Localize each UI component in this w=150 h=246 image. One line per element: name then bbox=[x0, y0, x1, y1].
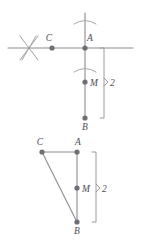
measure-bracket-bottom bbox=[92, 152, 100, 222]
measure-value-top: 2 bbox=[110, 78, 115, 88]
point-c-dot bbox=[49, 45, 54, 50]
point-c-label: C bbox=[37, 137, 44, 147]
point-a-label: A bbox=[86, 33, 93, 43]
top-diagram: C A M B 2 bbox=[8, 13, 133, 132]
point-b-dot bbox=[82, 115, 87, 120]
point-c-dot bbox=[39, 149, 44, 154]
point-a-dot bbox=[74, 149, 79, 154]
point-m-dot bbox=[74, 185, 79, 190]
point-m-dot bbox=[82, 79, 87, 84]
point-b-label: B bbox=[74, 226, 80, 236]
point-m-label: M bbox=[81, 184, 91, 194]
point-m-label: M bbox=[89, 78, 99, 88]
bottom-diagram: C A M B 2 bbox=[37, 137, 107, 236]
point-a-dot bbox=[82, 45, 87, 50]
geometry-canvas: C A M B 2 C A M bbox=[0, 0, 150, 246]
measure-bracket-top bbox=[100, 48, 108, 118]
geometry-figure: C A M B 2 C A M bbox=[0, 0, 150, 246]
point-a-label: A bbox=[74, 137, 81, 147]
point-b-dot bbox=[74, 219, 79, 224]
point-b-label: B bbox=[82, 122, 88, 132]
segment-cb bbox=[42, 152, 77, 222]
point-c-label: C bbox=[46, 33, 53, 43]
measure-value-bottom: 2 bbox=[102, 184, 107, 194]
